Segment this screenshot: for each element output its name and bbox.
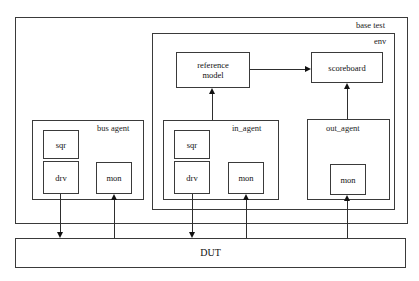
- arrowhead-refmodel-to-scoreboard: [305, 66, 311, 72]
- arrowhead-indrv-to-dut: [189, 232, 195, 238]
- arrowhead-inagent-to-refmodel: [209, 88, 215, 94]
- node-reference-model-label-line1: reference: [197, 60, 229, 70]
- connector-dut-to-outmon: [347, 201, 348, 238]
- node-reference-model: reference model: [176, 52, 250, 88]
- node-scoreboard: scoreboard: [311, 52, 383, 83]
- node-out-mon-label: mon: [340, 175, 355, 185]
- node-in-mon-label: mon: [238, 173, 253, 183]
- node-reference-model-label-line2: model: [202, 70, 223, 80]
- connector-outmon-to-scoreboard: [347, 89, 348, 120]
- node-bus-drv-label: drv: [55, 173, 66, 183]
- node-out-mon: mon: [330, 164, 366, 195]
- arrowhead-busdrv-to-dut: [57, 232, 63, 238]
- node-in-drv: drv: [174, 161, 210, 194]
- node-bus-sqr-label: sqr: [56, 140, 66, 150]
- container-out-agent-label: out_agent: [326, 123, 360, 133]
- connector-dut-to-inmon: [246, 200, 247, 238]
- connector-dut-to-busmon: [114, 200, 115, 238]
- arrowhead-outmon-to-scoreboard: [344, 83, 350, 89]
- node-bus-mon: mon: [96, 162, 132, 194]
- node-scoreboard-label: scoreboard: [328, 63, 365, 73]
- container-base-test-label: base test: [356, 20, 385, 30]
- node-bus-sqr: sqr: [43, 130, 79, 159]
- node-in-mon: mon: [228, 162, 264, 194]
- node-bus-drv: drv: [43, 161, 79, 194]
- node-bus-mon-label: mon: [106, 173, 121, 183]
- node-in-sqr: sqr: [174, 130, 210, 159]
- node-dut-label: DUT: [200, 248, 221, 258]
- container-env-label: env: [374, 36, 386, 46]
- arrowhead-dut-to-inmon: [243, 194, 249, 200]
- node-dut: DUT: [15, 238, 406, 268]
- container-bus-agent-label: bus agent: [97, 123, 129, 133]
- connector-refmodel-to-scoreboard: [250, 69, 305, 70]
- connector-inagent-to-refmodel: [212, 94, 213, 120]
- container-in-agent-label: in_agent: [232, 123, 261, 133]
- connector-busdrv-to-dut: [60, 194, 61, 232]
- arrowhead-dut-to-busmon: [111, 194, 117, 200]
- uvm-testbench-diagram: base test env reference model scoreboard…: [0, 0, 419, 281]
- node-in-sqr-label: sqr: [187, 140, 197, 150]
- node-in-drv-label: drv: [186, 173, 197, 183]
- connector-indrv-to-dut: [192, 194, 193, 232]
- arrowhead-dut-to-outmon: [344, 195, 350, 201]
